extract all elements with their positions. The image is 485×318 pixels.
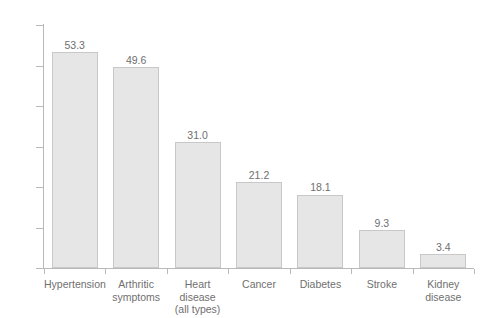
x-axis-category-label: Diabetes — [290, 278, 351, 291]
x-axis-category-label-line: Hypertension — [44, 278, 105, 291]
y-axis-tick-label-wrap: 40 — [0, 106, 43, 107]
bar-value-label: 9.3 — [375, 218, 390, 229]
x-axis-category-label-line: Cancer — [228, 278, 289, 291]
bar-value-label: 53.3 — [64, 40, 84, 51]
y-axis-tick-label-wrap: 0 — [0, 268, 43, 269]
bar-value-label: 3.4 — [436, 242, 451, 253]
x-axis-tick — [228, 269, 229, 274]
x-axis-category-label-line: Diabetes — [290, 278, 351, 291]
plot-area: 53.349.631.021.218.19.33.4 — [44, 25, 474, 268]
x-axis-category-label-line: Kidney — [413, 278, 474, 291]
y-axis-tick-label-wrap: 20 — [0, 187, 43, 188]
x-axis-category-label-line: symptoms — [105, 291, 166, 304]
x-axis-category-label-line: disease — [413, 291, 474, 304]
y-axis-tick-label-wrap: 10 — [0, 228, 43, 229]
x-axis-category-label-line: Arthritic — [105, 278, 166, 291]
bar: 21.2 — [236, 182, 282, 268]
x-axis-tick — [167, 269, 168, 274]
bar-value-label: 21.2 — [249, 170, 269, 181]
x-axis-category-label-line: (all types) — [167, 303, 228, 316]
x-axis-line — [43, 268, 474, 269]
x-axis-category-label-line: Stroke — [351, 278, 412, 291]
x-axis-tick — [105, 269, 106, 274]
x-axis-category-label: Arthriticsymptoms — [105, 278, 166, 303]
bar: 18.1 — [297, 195, 343, 268]
bar-value-label: 18.1 — [310, 182, 330, 193]
x-axis-category-label: Heart disease(all types) — [167, 278, 228, 316]
bar: 31.0 — [175, 142, 221, 268]
x-axis-category-label: Hypertension — [44, 278, 105, 291]
y-axis-tick-label-wrap: 30 — [0, 147, 43, 148]
y-axis-tick-label-wrap: 50 — [0, 66, 43, 67]
bar: 9.3 — [359, 230, 405, 268]
bar-value-label: 31.0 — [187, 130, 207, 141]
bar: 3.4 — [420, 254, 466, 268]
bar-chart: 0102030405060 53.349.631.021.218.19.33.4… — [0, 0, 485, 318]
x-axis-category-label: Stroke — [351, 278, 412, 291]
x-axis-tick — [290, 269, 291, 274]
x-axis-category-label: Cancer — [228, 278, 289, 291]
bar: 53.3 — [52, 52, 98, 268]
x-axis-tick — [351, 269, 352, 274]
x-axis-tick — [413, 269, 414, 274]
x-axis-category-label-line: Heart disease — [167, 278, 228, 303]
bar: 49.6 — [113, 67, 159, 268]
bar-value-label: 49.6 — [126, 55, 146, 66]
x-axis-tick — [44, 269, 45, 274]
x-axis-category-label: Kidneydisease — [413, 278, 474, 303]
y-axis-tick-label-wrap: 60 — [0, 25, 43, 26]
x-axis-tick — [474, 269, 475, 274]
